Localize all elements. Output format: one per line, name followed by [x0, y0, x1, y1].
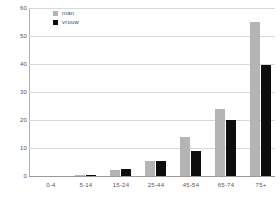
bar-vrouw-5-14 — [86, 175, 96, 176]
y-axis-tick-labels: 60 50 40 30 20 10 0 — [0, 8, 27, 176]
bar-man-45-54 — [180, 137, 190, 176]
y-tick-label: 30 — [3, 89, 27, 95]
bar-vrouw-75plus — [261, 65, 271, 176]
bar-vrouw-65-74 — [226, 120, 236, 176]
legend-label-vrouw: vrouw — [62, 19, 79, 25]
bar-vrouw-25-44 — [156, 161, 166, 176]
x-axis-tick-labels: 0-4 5-14 15-24 25-44 45-54 65-74 75+ — [29, 182, 275, 196]
x-tick-label: 25-44 — [148, 182, 164, 188]
bar-man-65-74 — [215, 109, 225, 176]
x-tick-label: 45-54 — [183, 182, 199, 188]
bar-man-15-24 — [110, 170, 120, 176]
y-tick-label: 20 — [3, 117, 27, 123]
x-tick-label: 75+ — [256, 182, 267, 188]
legend-swatch-vrouw-icon — [53, 20, 58, 25]
y-tick-label: 10 — [3, 145, 27, 151]
bar-chart: 60 50 40 30 20 10 0 — [0, 0, 280, 202]
bar-vrouw-45-54 — [191, 151, 201, 176]
y-tick-label: 0 — [3, 173, 27, 179]
x-tick-label: 65-74 — [218, 182, 234, 188]
bar-vrouw-15-24 — [121, 169, 131, 176]
y-tick-label: 60 — [3, 5, 27, 11]
legend-item-vrouw: vrouw — [53, 19, 79, 25]
gridline-0 — [29, 176, 275, 177]
chart-legend: man vrouw — [53, 10, 79, 25]
legend-swatch-man-icon — [53, 11, 58, 16]
bar-man-25-44 — [145, 161, 155, 176]
bar-man-5-14 — [75, 175, 85, 176]
legend-item-man: man — [53, 10, 79, 16]
bars-layer — [29, 8, 275, 176]
bar-man-75plus — [250, 22, 260, 176]
x-tick-label: 15-24 — [113, 182, 129, 188]
x-tick-label: 5-14 — [80, 182, 93, 188]
y-tick-label: 40 — [3, 61, 27, 67]
legend-label-man: man — [62, 10, 74, 16]
x-tick-label: 0-4 — [46, 182, 55, 188]
y-tick-label: 50 — [3, 33, 27, 39]
